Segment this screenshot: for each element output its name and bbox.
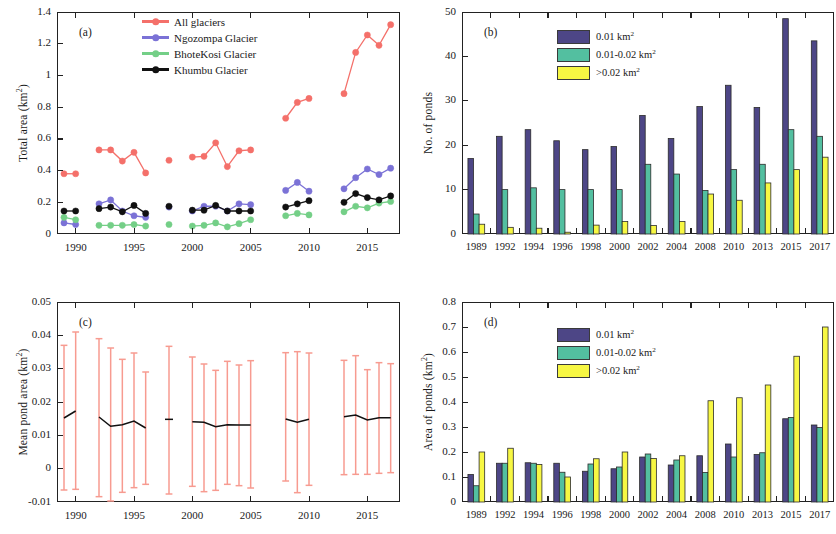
panel-c-x-tick-label: 1990 bbox=[46, 509, 106, 521]
panel-c-y-tick-label: -0.01 bbox=[9, 495, 51, 507]
panel-b-x-tick-top bbox=[547, 12, 548, 18]
panel-c-x-tick-label: 2005 bbox=[221, 509, 281, 521]
panel-a-x-tick-label: 2005 bbox=[221, 241, 281, 253]
panel-d-y-tick-label: 0.8 bbox=[414, 295, 456, 307]
panel-b-x-tick bbox=[776, 228, 777, 234]
panel-d-y-tick-label: 0.4 bbox=[414, 395, 456, 407]
panel-b-x-tick bbox=[490, 228, 491, 234]
panel-d-x-tick bbox=[805, 496, 806, 502]
panel-b-x-tick-top bbox=[662, 12, 663, 18]
panel-d-x-tick-top bbox=[690, 302, 691, 308]
panel-a-y-tick-label: 0.2 bbox=[9, 195, 51, 207]
panel-a-x-tick bbox=[367, 228, 368, 234]
panel-c-x-tick bbox=[309, 496, 310, 502]
panel-a-x-tick-top bbox=[250, 12, 251, 18]
panel-d-y-tick bbox=[462, 327, 468, 328]
panel-b-y-tick-label: 40 bbox=[414, 49, 456, 61]
panel-d-x-tick bbox=[576, 496, 577, 502]
panel-d-x-tick bbox=[776, 496, 777, 502]
panel-c-y-tick bbox=[57, 468, 63, 469]
panel-b-x-tick bbox=[519, 228, 520, 234]
panel-a-x-tick-label: 2010 bbox=[279, 241, 339, 253]
panel-b-x-tick-top bbox=[805, 12, 806, 18]
panel-b-x-tick-top bbox=[690, 12, 691, 18]
panel-a-x-tick bbox=[75, 228, 76, 234]
panel-a-y-tick bbox=[57, 170, 63, 171]
panel-d-x-tick-top bbox=[805, 302, 806, 308]
panel-d-category-label: 2017 bbox=[796, 509, 836, 520]
panel-d-x-tick-top bbox=[576, 302, 577, 308]
panel-c-y-tick-label: 0.02 bbox=[9, 395, 51, 407]
panel-c-x-tick-top bbox=[250, 302, 251, 308]
panel-b-x-tick bbox=[662, 228, 663, 234]
panel-b-x-tick-top bbox=[719, 12, 720, 18]
panel-c-x-tick-top bbox=[192, 302, 193, 308]
panel-a-x-tick bbox=[134, 228, 135, 234]
panel-d-y-tick-label: 0.3 bbox=[414, 420, 456, 432]
panel-a-x-tick-top bbox=[192, 12, 193, 18]
panel-a-x-tick-top bbox=[309, 12, 310, 18]
panel-d-x-tick-top bbox=[605, 302, 606, 308]
panel-d-x-tick bbox=[748, 496, 749, 502]
panel-b-x-tick-top bbox=[633, 12, 634, 18]
panel-b-x-tick bbox=[748, 228, 749, 234]
panel-c-y-tick-label: 0.04 bbox=[9, 328, 51, 340]
panel-c-y-tick bbox=[57, 435, 63, 436]
panel-c-x-tick-top bbox=[367, 302, 368, 308]
panel-c-x-tick-top bbox=[309, 302, 310, 308]
panel-b-x-tick bbox=[690, 228, 691, 234]
panel-d-x-tick-top bbox=[490, 302, 491, 308]
panel-d-bars-layer bbox=[418, 267, 836, 534]
panel-d-y-tick-label: 0.6 bbox=[414, 345, 456, 357]
panel-d-x-tick bbox=[605, 496, 606, 502]
panel-b-x-tick bbox=[576, 228, 577, 234]
panel-a-y-tick-label: 1.4 bbox=[9, 5, 51, 17]
panel-d-y-tick-label: 0.5 bbox=[414, 370, 456, 382]
panel-a-x-tick-top bbox=[134, 12, 135, 18]
panel-d-x-tick bbox=[519, 496, 520, 502]
panel-d-x-tick bbox=[633, 496, 634, 502]
panel-a-y-tick bbox=[57, 138, 63, 139]
panel-b-y-tick-label: 0 bbox=[414, 227, 456, 239]
panel-c-x-tick-label: 1995 bbox=[104, 509, 164, 521]
panel-a-x-tick-top bbox=[75, 12, 76, 18]
panel-a-y-tick-label: 1 bbox=[9, 68, 51, 80]
panel-d-y-tick-label: 0.1 bbox=[414, 470, 456, 482]
panel-c-x-tick bbox=[367, 496, 368, 502]
panel-c-x-tick-label: 2015 bbox=[337, 509, 397, 521]
panel-c-x-tick-label: 2010 bbox=[279, 509, 339, 521]
panel-c-x-tick-top bbox=[75, 302, 76, 308]
panel-c-x-tick bbox=[134, 496, 135, 502]
panel-b-x-tick bbox=[605, 228, 606, 234]
panel-c-y-tick-label: 0 bbox=[9, 461, 51, 473]
panel-c-y-tick bbox=[57, 335, 63, 336]
panel-c-y-tick-label: 0.01 bbox=[9, 428, 51, 440]
panel-a-x-tick bbox=[192, 228, 193, 234]
panel-b-x-tick bbox=[633, 228, 634, 234]
panel-b-x-tick-top bbox=[605, 12, 606, 18]
panel-d-y-tick bbox=[462, 477, 468, 478]
panel-a-x-tick bbox=[309, 228, 310, 234]
panel-d-x-tick bbox=[490, 496, 491, 502]
panel-a-y-tick-label: 0.4 bbox=[9, 163, 51, 175]
panel-a-x-tick bbox=[250, 228, 251, 234]
panel-b-y-tick-label: 20 bbox=[414, 138, 456, 150]
panel-b-x-tick-top bbox=[519, 12, 520, 18]
panel-a-y-tick bbox=[57, 202, 63, 203]
panel-b-y-tick bbox=[462, 100, 468, 101]
panel-d-x-tick bbox=[547, 496, 548, 502]
panel-b-y-tick bbox=[462, 189, 468, 190]
panel-a-y-tick bbox=[57, 75, 63, 76]
panel-c-x-tick bbox=[192, 496, 193, 502]
panel-b-x-tick bbox=[547, 228, 548, 234]
panel-d-x-tick-top bbox=[748, 302, 749, 308]
panel-d-y-tick bbox=[462, 427, 468, 428]
panel-a-y-tick-label: 0 bbox=[9, 227, 51, 239]
panel-d-x-tick-top bbox=[519, 302, 520, 308]
panel-d-pond-area: Area of ponds (km2) (d) 0.01 km20.01-0.0… bbox=[418, 267, 836, 534]
panel-c-y-tick bbox=[57, 402, 63, 403]
panel-d-x-tick-top bbox=[662, 302, 663, 308]
panel-c-y-tick bbox=[57, 368, 63, 369]
panel-d-x-tick-top bbox=[547, 302, 548, 308]
panel-d-x-tick-top bbox=[776, 302, 777, 308]
